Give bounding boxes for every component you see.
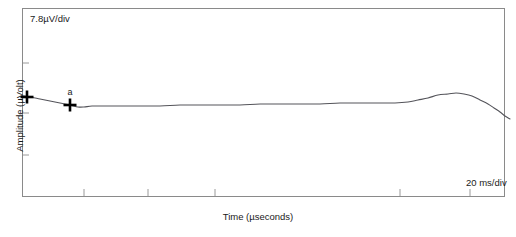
cursor-a-label: a [67,87,72,97]
waveform-chart: 7.8µV/div 20 ms/div Amplitude (µVolt) Ti… [0,0,516,237]
y-axis-ticks [23,63,29,155]
plot-svg-layer: a [0,0,516,237]
trace-line [23,93,510,119]
waveform-trace [23,93,510,119]
cursor-markers: a [21,87,77,112]
x-axis-ticks [84,189,470,196]
